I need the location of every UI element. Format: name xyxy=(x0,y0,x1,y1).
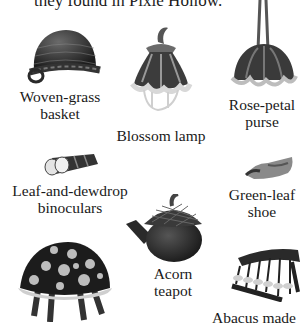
abacus-icon xyxy=(228,240,302,302)
label-teapot: Acorn teapot xyxy=(138,265,208,299)
label-line: Woven-grass xyxy=(5,88,115,105)
label-line: basket xyxy=(5,105,115,122)
intro-text: they found in Pixie Hollow. xyxy=(34,0,222,11)
mushroom-stool-icon xyxy=(14,236,114,322)
label-line: teapot xyxy=(138,282,208,299)
label-abacus: Abacus made xyxy=(206,309,302,326)
teapot-icon xyxy=(122,194,206,264)
label-purse: Rose-petal purse xyxy=(222,96,302,130)
label-line: Acorn xyxy=(138,265,208,282)
label-blossom-lamp: Blossom lamp xyxy=(116,127,206,144)
basket-icon xyxy=(26,26,102,86)
label-line: purse xyxy=(222,113,302,130)
label-line: Rose-petal xyxy=(222,96,302,113)
label-line: Leaf-and-dewdrop xyxy=(2,182,138,199)
label-basket: Woven-grass basket xyxy=(5,88,115,122)
purse-icon xyxy=(228,0,300,90)
label-line: Green-leaf xyxy=(222,186,302,203)
shoe-icon xyxy=(244,155,294,181)
label-line: binoculars xyxy=(2,199,138,216)
binoculars-icon xyxy=(42,152,100,178)
label-line: shoe xyxy=(222,203,302,220)
blossom-lamp-icon xyxy=(128,24,194,114)
label-shoe: Green-leaf shoe xyxy=(222,186,302,220)
label-binoculars: Leaf-and-dewdrop binoculars xyxy=(2,182,138,216)
